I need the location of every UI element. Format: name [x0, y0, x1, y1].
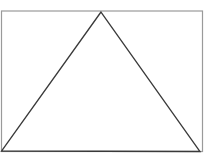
inscribed-triangle [2, 12, 201, 152]
diagram-canvas [0, 0, 205, 157]
outer-rectangle [2, 11, 203, 152]
geometry-figure [0, 0, 205, 157]
